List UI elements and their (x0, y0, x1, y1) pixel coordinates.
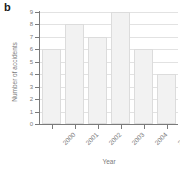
y-axis-tick (35, 12, 39, 13)
bar[interactable] (42, 49, 60, 124)
y-axis-tick-label: 3 (21, 84, 33, 90)
gridline (40, 12, 178, 13)
gridline (40, 62, 178, 63)
y-axis-tick (35, 37, 39, 38)
x-axis-tick-label: 2002 (107, 131, 122, 146)
x-axis-line (39, 124, 178, 125)
y-axis-tick-label: 0 (21, 121, 33, 127)
x-axis-tick (121, 125, 122, 129)
y-axis-tick-label: 6 (21, 46, 33, 52)
y-axis-tick (35, 49, 39, 50)
x-axis-tick-label: 2003 (130, 131, 145, 146)
bar[interactable] (157, 74, 175, 124)
x-axis-title: Year (40, 158, 178, 166)
y-axis-tick-label: 2 (21, 96, 33, 102)
bar[interactable] (65, 24, 83, 124)
x-axis-tick (52, 125, 53, 129)
x-axis-tick (144, 125, 145, 129)
y-axis-tick-label: 9 (21, 9, 33, 15)
y-axis-tick (35, 74, 39, 75)
y-axis-tick (35, 112, 39, 113)
y-axis-tick (35, 24, 39, 25)
x-axis-tick (98, 125, 99, 129)
x-axis-tick (167, 125, 168, 129)
bar[interactable] (111, 12, 129, 124)
y-axis-tick-label: 1 (21, 109, 33, 115)
plot-area (40, 12, 178, 124)
y-axis-line (39, 11, 40, 125)
y-axis-tick (35, 124, 39, 125)
bar[interactable] (134, 49, 152, 124)
gridline (40, 24, 178, 25)
y-axis-tick (35, 99, 39, 100)
y-axis-tick (35, 62, 39, 63)
gridline (40, 37, 178, 38)
x-axis-tick-label: 2000 (61, 131, 76, 146)
y-axis-tick-label: 4 (21, 71, 33, 77)
y-axis-tick-label: 8 (21, 21, 33, 27)
gridline (40, 49, 178, 50)
y-axis-tick-label: 7 (21, 34, 33, 40)
bar-chart-figure: Number of accidents Year 012345678920002… (0, 0, 180, 172)
bar[interactable] (88, 37, 106, 124)
y-axis-title: Number of accidents (11, 27, 19, 117)
y-axis-tick (35, 87, 39, 88)
x-axis-tick-label: 2001 (84, 131, 99, 146)
y-axis-tick-label: 5 (21, 59, 33, 65)
x-axis-tick (75, 125, 76, 129)
x-axis-tick-label: 2004 (153, 131, 168, 146)
x-axis-tick-label: 2005 (176, 131, 180, 146)
